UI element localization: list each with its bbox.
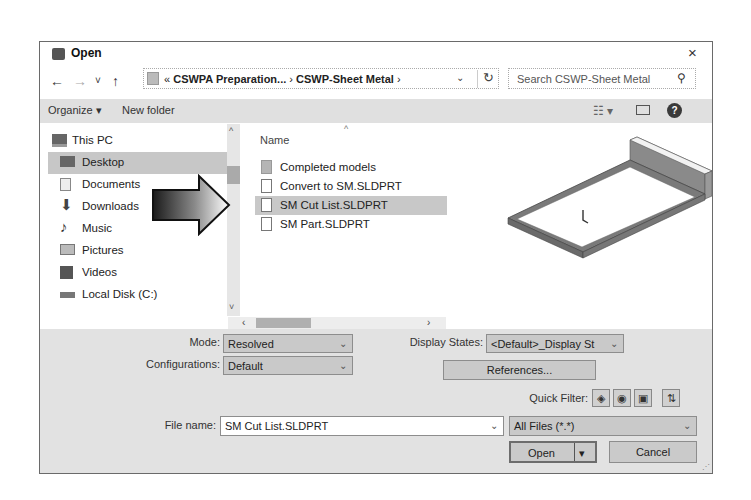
forward-arrow-icon[interactable]: → [73, 73, 87, 89]
desktop-icon [60, 156, 75, 167]
open-options-dropdown-icon[interactable]: ▾ [574, 443, 585, 461]
sidebar-item-label: Music [82, 222, 112, 234]
command-bar: Organize ▾ New folder ☷ ▾ ? [40, 99, 712, 123]
file-name: SM Cut List.SLDPRT [280, 199, 388, 211]
computer-icon [52, 134, 67, 147]
open-file-dialog: Open × ← → ˅ ↑ « CSWPA Preparation... › … [39, 41, 713, 474]
file-type-select[interactable]: All Files (*.*) ⌄ [509, 416, 697, 436]
scroll-up-icon[interactable]: ^ [229, 126, 233, 136]
resize-grip-icon[interactable]: ⋰ [702, 462, 710, 471]
dialog-title: Open [71, 46, 102, 60]
sidebar-item-label: Desktop [82, 156, 124, 168]
scroll-down-icon[interactable]: ˅ [229, 302, 234, 312]
display-states-select[interactable]: <Default>_Display St ⌄ [486, 334, 624, 353]
recent-locations-chevron-icon[interactable]: ˅ [95, 75, 101, 86]
sheet-metal-part-preview-icon [447, 124, 712, 329]
scroll-right-icon[interactable]: › [427, 317, 430, 328]
sidebar-item-label: Local Disk (C:) [82, 288, 157, 300]
refresh-icon[interactable]: ↻ [477, 70, 494, 88]
open-button-label: Open [528, 443, 555, 463]
display-states-value: <Default>_Display St [491, 338, 594, 350]
search-placeholder: Search CSWP-Sheet Metal [517, 73, 650, 85]
cancel-button[interactable]: Cancel [609, 441, 697, 463]
folder-icon [261, 160, 272, 174]
breadcrumb-cswp-sheet-metal[interactable]: CSWP-Sheet Metal [296, 73, 394, 85]
chevron-down-icon[interactable]: ⌄ [490, 420, 498, 431]
sidebar-item-label: Videos [82, 266, 117, 278]
search-input[interactable]: Search CSWP-Sheet Metal ⚲ [508, 68, 696, 89]
file-item-sm-part[interactable]: SM Part.SLDPRT [255, 215, 447, 234]
file-name-value: SM Cut List.SLDPRT [225, 420, 328, 432]
back-arrow-icon[interactable]: ← [50, 73, 64, 89]
sidebar-item-label: Downloads [82, 200, 139, 212]
file-item-convert-to-sm[interactable]: Convert to SM.SLDPRT [255, 177, 447, 196]
sidebar-item-this-pc[interactable]: This PC [48, 130, 228, 152]
quick-filter-label: Quick Filter: [508, 392, 588, 404]
mode-select[interactable]: Resolved ⌄ [223, 334, 353, 353]
sidebar-item-desktop[interactable]: Desktop [48, 152, 228, 174]
sidebar-item-label: Pictures [82, 244, 124, 256]
open-button[interactable]: Open ▾ [509, 441, 597, 463]
breadcrumb-separator: › [394, 73, 401, 85]
title-bar: Open × [40, 42, 712, 66]
file-list-horizontal-scrollbar[interactable]: ‹ › [228, 317, 446, 329]
chevron-down-icon: ⌄ [339, 360, 347, 371]
videos-icon [60, 266, 73, 279]
file-item-completed-models[interactable]: Completed models [255, 158, 447, 177]
breadcrumb: « CSWPA Preparation... › CSWP-Sheet Meta… [164, 73, 401, 85]
mode-value: Resolved [228, 338, 274, 350]
file-name-label: File name: [140, 419, 216, 431]
preview-pane-icon[interactable] [636, 105, 650, 115]
folder-icon [147, 72, 159, 85]
drive-icon [60, 292, 75, 298]
file-name: Convert to SM.SLDPRT [280, 180, 402, 192]
configurations-value: Default [228, 360, 263, 372]
file-name-input[interactable]: SM Cut List.SLDPRT ⌄ [220, 416, 504, 436]
organize-button[interactable]: Organize ▾ [48, 104, 102, 117]
scroll-left-icon[interactable]: ‹ [242, 317, 245, 328]
up-arrow-icon[interactable]: ↑ [112, 73, 119, 89]
sidebar-item-pictures[interactable]: Pictures [48, 240, 228, 262]
breadcrumb-cswpa-preparation[interactable]: CSWPA Preparation... [173, 73, 286, 85]
references-button[interactable]: References... [443, 360, 596, 380]
address-bar[interactable]: « CSWPA Preparation... › CSWP-Sheet Meta… [143, 68, 499, 89]
scrollbar-thumb[interactable] [256, 318, 311, 328]
file-name: Completed models [280, 161, 376, 173]
documents-icon [60, 178, 71, 191]
configurations-label: Configurations: [120, 358, 220, 370]
music-icon: ♪ [60, 219, 75, 232]
file-name: SM Part.SLDPRT [280, 218, 370, 230]
breadcrumb-overflow[interactable]: « [164, 73, 173, 85]
display-states-label: Display States: [380, 336, 483, 348]
chevron-down-icon: ⌄ [339, 338, 347, 349]
file-item-sm-cut-list[interactable]: SM Cut List.SLDPRT [255, 196, 447, 215]
search-icon[interactable]: ⚲ [677, 71, 686, 85]
file-icon [261, 217, 272, 231]
file-icon [261, 198, 272, 212]
filter-drawings-icon[interactable]: ▣ [634, 389, 652, 407]
change-view-icon[interactable]: ☷ ▾ [593, 104, 613, 118]
filter-assemblies-icon[interactable]: ◉ [613, 389, 631, 407]
callout-arrow-icon [151, 174, 231, 236]
address-dropdown-icon[interactable]: ⌄ [456, 72, 464, 83]
filter-top-level-assemblies-icon[interactable]: ⇅ [662, 389, 680, 407]
file-list: ^ Name Completed models Convert to SM.SL… [241, 124, 446, 316]
sidebar-item-local-disk[interactable]: Local Disk (C:) [48, 284, 228, 306]
sidebar-item-label: Documents [82, 178, 140, 190]
file-icon [261, 179, 272, 193]
preview-pane [447, 124, 712, 329]
chevron-down-icon: ⌄ [610, 338, 618, 349]
new-folder-button[interactable]: New folder [122, 104, 175, 116]
file-type-value: All Files (*.*) [514, 420, 575, 432]
chevron-down-icon: ⌄ [683, 420, 691, 431]
downloads-icon: ⬇ [60, 197, 75, 210]
breadcrumb-separator: › [286, 73, 296, 85]
pictures-icon [60, 244, 75, 255]
sidebar-item-videos[interactable]: Videos [48, 262, 228, 284]
configurations-select[interactable]: Default ⌄ [223, 356, 353, 375]
filter-parts-icon[interactable]: ◈ [592, 389, 610, 407]
close-button[interactable]: × [688, 44, 697, 61]
sidebar-item-label: This PC [72, 134, 113, 146]
help-icon[interactable]: ? [667, 103, 682, 118]
column-header-name[interactable]: Name [260, 134, 289, 146]
